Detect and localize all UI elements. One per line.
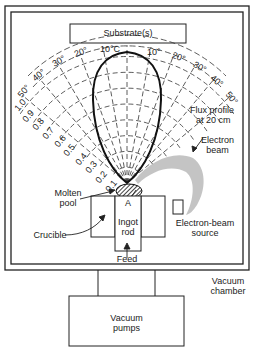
crucible-label: Crucible (30, 230, 70, 240)
ingot-label-2: rod (115, 227, 141, 237)
diagram-canvas (0, 0, 254, 349)
electron-beam-source-box (173, 200, 183, 214)
crucible-right-block (141, 196, 165, 237)
ingot-label-1: Ingot (115, 217, 141, 227)
vacuum-pumps-label-1: Vacuum (69, 313, 184, 323)
eb-source-label-2: source (170, 228, 240, 238)
vacuum-pumps-label-2: pumps (69, 323, 184, 333)
vacuum-chamber-label-1: Vacuum (206, 276, 250, 286)
angle-label-10c: 10°C (100, 44, 120, 54)
electron-beam-label-1: Electron (195, 135, 240, 145)
flux-profile-label-2: at 20 cm (196, 115, 231, 125)
molten-pool-label-2: pool (52, 198, 84, 208)
feed-label: Feed (110, 254, 144, 264)
molten-pool-label-1: Molten (52, 188, 84, 198)
eb-source-label-1: Electron-beam (170, 218, 240, 228)
vacuum-chamber-label-2: chamber (206, 286, 250, 296)
flux-profile-label-1: Flux profile (190, 105, 234, 115)
electron-beam-label-2: beam (195, 145, 240, 155)
angle-label-right-10: 10° (147, 47, 161, 57)
point-a-label: A (122, 198, 134, 208)
substrate-label: Substrate(s) (70, 28, 186, 38)
